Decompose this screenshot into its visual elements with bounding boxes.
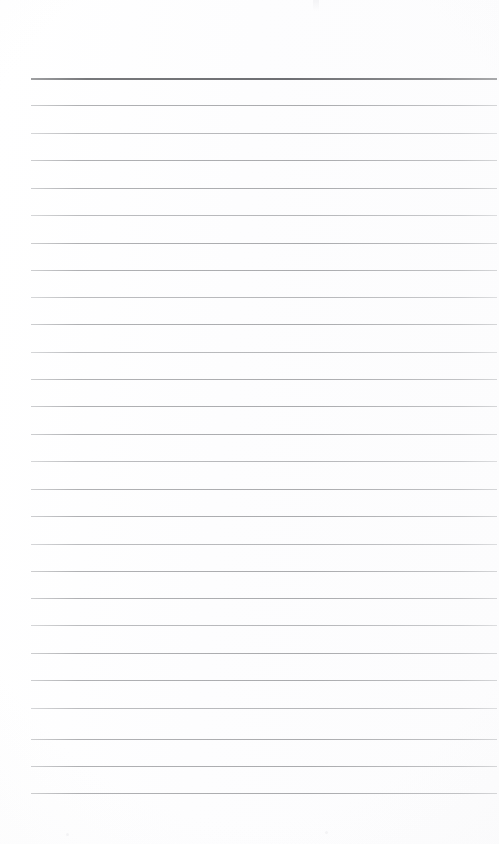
rule-line bbox=[31, 793, 497, 794]
rule-line bbox=[31, 434, 497, 435]
rule-line bbox=[31, 188, 497, 189]
rule-line bbox=[31, 270, 497, 271]
rule-line bbox=[31, 78, 497, 80]
rule-line bbox=[31, 516, 497, 517]
rule-line bbox=[31, 215, 497, 216]
rule-line bbox=[31, 133, 497, 134]
rule-line bbox=[31, 379, 497, 380]
rule-line bbox=[31, 297, 497, 298]
rule-line bbox=[31, 461, 497, 462]
rule-line bbox=[31, 571, 497, 572]
rule-line bbox=[31, 243, 497, 244]
ruled-lines-layer bbox=[0, 0, 499, 844]
rule-line bbox=[31, 653, 497, 654]
rule-line bbox=[31, 406, 497, 407]
rule-line bbox=[31, 352, 497, 353]
rule-line bbox=[31, 625, 497, 626]
rule-line bbox=[31, 105, 497, 106]
rule-line bbox=[31, 739, 497, 740]
scanned-page bbox=[0, 0, 499, 844]
rule-line bbox=[31, 598, 497, 599]
rule-line bbox=[31, 160, 497, 161]
rule-line bbox=[31, 680, 497, 681]
rule-line bbox=[31, 324, 497, 325]
rule-line bbox=[31, 766, 497, 767]
rule-line bbox=[31, 544, 497, 545]
rule-line bbox=[31, 489, 497, 490]
rule-line bbox=[31, 708, 497, 709]
